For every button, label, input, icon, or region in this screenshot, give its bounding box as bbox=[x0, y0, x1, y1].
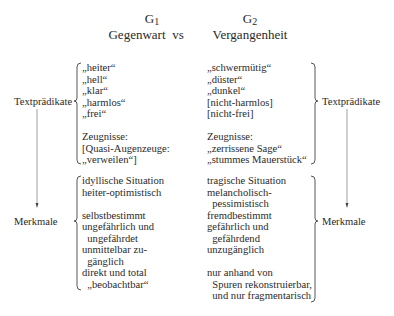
right-brace-top bbox=[311, 63, 318, 164]
right-brace-bottom bbox=[311, 176, 318, 302]
right-arrow-head bbox=[346, 203, 349, 208]
left-brace-bottom bbox=[74, 176, 81, 290]
left-arrow-head bbox=[36, 203, 39, 208]
diagram-connectors bbox=[0, 0, 394, 316]
left-brace-top bbox=[74, 63, 81, 164]
